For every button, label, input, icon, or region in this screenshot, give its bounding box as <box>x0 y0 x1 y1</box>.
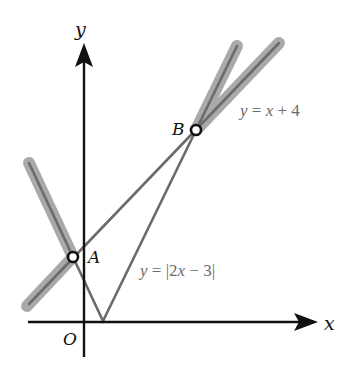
point-b-label: B <box>171 119 185 139</box>
equation-line-eq: = <box>248 101 266 120</box>
equation-abs-rest: − 3| <box>185 261 215 280</box>
equation-line-label: y = x + 4 <box>238 101 300 120</box>
x-axis-label: x <box>324 312 335 334</box>
equation-abs-lhs: y <box>138 261 148 280</box>
origin-label: O <box>63 329 77 349</box>
point-a-marker <box>68 252 78 262</box>
graph-diagram: y x O A B y = x + 4 y = |2x − 3| <box>0 0 364 384</box>
point-a-label: A <box>86 247 100 267</box>
equation-line-lhs: y <box>238 101 248 120</box>
equation-line-rest: + 4 <box>273 101 300 120</box>
point-b-marker <box>191 125 201 135</box>
equation-abs-eq: = |2 <box>148 261 178 280</box>
y-axis-label: y <box>74 18 86 40</box>
equation-abs-label: y = |2x − 3| <box>138 261 215 280</box>
